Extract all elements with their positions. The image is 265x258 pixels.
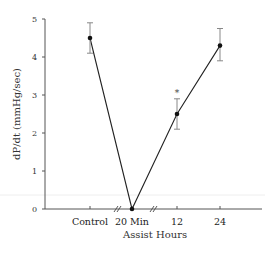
y-tick-label: 5 <box>32 15 37 24</box>
line-chart: 012345 dP/dt (mmHg/sec) Control20 Min122… <box>0 0 265 258</box>
x-tick-label: Control <box>72 216 108 227</box>
data-point <box>88 36 93 41</box>
x-tick-label: 24 <box>214 216 226 227</box>
x-axis-title: Assist Hours <box>122 229 187 240</box>
x-tick-label: 20 Min <box>115 216 149 227</box>
x-axis: Control20 Min1224 Assist Hours <box>45 206 262 240</box>
y-tick-label: 1 <box>32 167 37 176</box>
y-axis-title: dP/dt (mmHg/sec) <box>11 68 22 160</box>
y-axis: 012345 dP/dt (mmHg/sec) <box>11 15 45 214</box>
series-line <box>90 38 220 209</box>
data-point <box>218 43 223 48</box>
x-tick-label: 12 <box>171 216 183 227</box>
data-point <box>130 207 135 212</box>
y-tick-label: 4 <box>32 53 37 62</box>
significance-asterisk: * <box>175 88 180 98</box>
y-tick-label: 2 <box>32 129 37 138</box>
data-point <box>175 112 180 117</box>
data-series: * <box>87 23 223 212</box>
y-tick-label: 3 <box>32 91 37 100</box>
y-tick-label: 0 <box>32 205 37 214</box>
